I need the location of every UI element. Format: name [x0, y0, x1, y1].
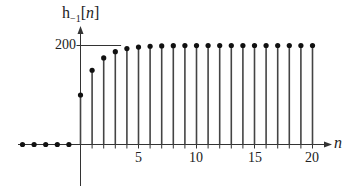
- stem-dot-icon: [78, 92, 83, 97]
- stem-dot-icon: [124, 46, 129, 51]
- stem-dot-icon: [252, 43, 257, 48]
- stem-dot-icon: [171, 43, 176, 48]
- stem-dot-icon: [310, 43, 315, 48]
- y-axis-label: h−1[n]: [62, 5, 99, 24]
- stem-dot-icon: [275, 43, 280, 48]
- y-tick-label-200: 200: [55, 38, 76, 52]
- stem-dot-icon: [182, 43, 187, 48]
- stem-dot-icon: [217, 43, 222, 48]
- stem-dot-icon: [159, 43, 164, 48]
- x-tick-label-20: 20: [305, 151, 319, 165]
- stem-dot-icon: [194, 43, 199, 48]
- stem-dot-icon: [240, 43, 245, 48]
- stem-dot-icon: [20, 142, 25, 147]
- stem-dot-icon: [66, 142, 71, 147]
- stem-dot-icon: [287, 43, 292, 48]
- x-tick-label-5: 5: [135, 151, 142, 165]
- stem-dot-icon: [55, 142, 60, 147]
- stem-dot-icon: [148, 44, 153, 49]
- stem-dot-icon: [136, 44, 141, 49]
- stem-dot-icon: [101, 55, 106, 60]
- y-axis-arrow-icon: [78, 26, 84, 34]
- stem-dot-icon: [298, 43, 303, 48]
- stem-dot-icon: [206, 43, 211, 48]
- stem-dot-icon: [264, 43, 269, 48]
- x-axis-arrow-icon: [324, 142, 332, 148]
- stem-dot-icon: [31, 142, 36, 147]
- x-tick-label-10: 10: [189, 151, 203, 165]
- x-axis-label: n: [334, 135, 342, 151]
- stems: [20, 43, 315, 147]
- stem-dot-icon: [229, 43, 234, 48]
- x-tick-label-15: 15: [248, 151, 262, 165]
- stem-dot-icon: [43, 142, 48, 147]
- stem-dot-icon: [90, 68, 95, 73]
- stem-dot-icon: [113, 49, 118, 54]
